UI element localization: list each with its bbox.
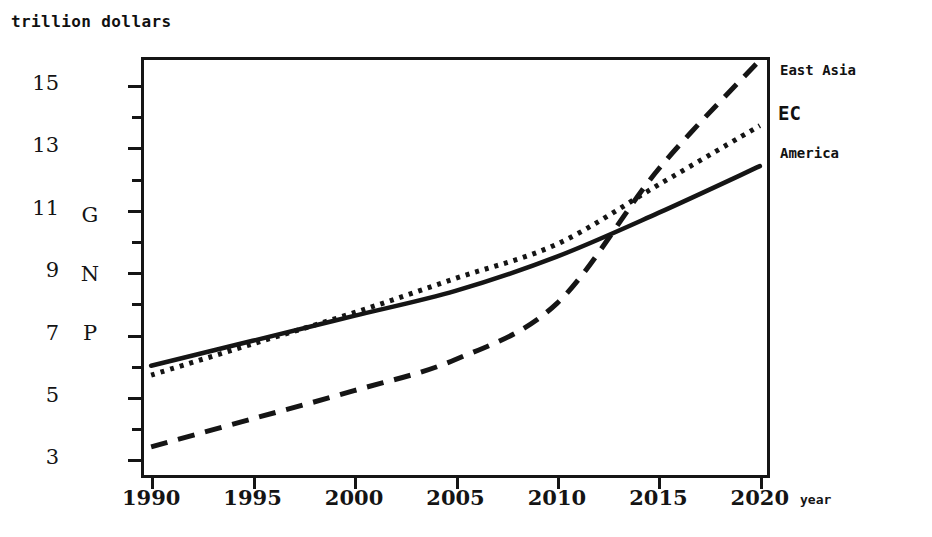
- x-axis-title: year: [800, 492, 831, 507]
- y-axis-tick-minor: [132, 366, 141, 369]
- y-axis-tick-label: 11: [19, 196, 59, 220]
- y-axis-tick-label: 7: [19, 321, 59, 345]
- x-axis-tick-label: 2005: [426, 485, 484, 510]
- y-axis-tick-label: 5: [19, 383, 59, 407]
- y-axis-tick-major: [128, 85, 141, 88]
- series-label-ec: EC: [778, 102, 801, 124]
- y-axis-tick-minor: [132, 116, 141, 119]
- x-axis-tick-label: 2020: [731, 485, 789, 510]
- y-axis-tick-minor: [132, 241, 141, 244]
- x-axis-tick-labels: 1990199520002005201020152020: [141, 485, 770, 515]
- x-axis-tick-label: 1995: [223, 485, 281, 510]
- y-axis-tick-major: [128, 335, 141, 338]
- chart-unit-title: trillion dollars: [11, 12, 172, 31]
- x-axis-tick-label: 2015: [629, 485, 687, 510]
- series-label-east-asia: East Asia: [780, 62, 856, 78]
- y-axis-tick-major: [128, 210, 141, 213]
- y-axis-tick-minor: [132, 428, 141, 431]
- y-axis-tick-label: 3: [19, 445, 59, 469]
- y-axis-tick-minor: [132, 179, 141, 182]
- series-line-east-asia: [151, 60, 760, 447]
- series-line-ec: [151, 126, 760, 375]
- chart-page: trillion dollars G N P 3579111315 199019…: [0, 0, 932, 537]
- y-axis-tick-major: [128, 397, 141, 400]
- y-axis-title-letter-p: P: [78, 304, 102, 363]
- y-axis-title-letter-g: G: [78, 186, 102, 245]
- y-axis-tick-major: [128, 272, 141, 275]
- y-axis-tick-label: 9: [19, 258, 59, 282]
- x-axis-tick-label: 2000: [325, 485, 383, 510]
- series-label-america: America: [780, 145, 839, 161]
- x-axis-tick-label: 2010: [528, 485, 586, 510]
- x-axis-tick-label: 1990: [122, 485, 180, 510]
- y-axis-title: G N P: [78, 186, 102, 363]
- y-axis-title-letter-n: N: [78, 245, 102, 304]
- chart-lines: [141, 57, 770, 478]
- y-axis-tick-label: 13: [19, 133, 59, 157]
- y-axis-tick-major: [128, 459, 141, 462]
- y-axis-tick-minor: [132, 303, 141, 306]
- series-line-america: [151, 166, 760, 366]
- y-axis-tick-label: 15: [19, 71, 59, 95]
- plot-area: [141, 57, 770, 478]
- y-axis-tick-major: [128, 147, 141, 150]
